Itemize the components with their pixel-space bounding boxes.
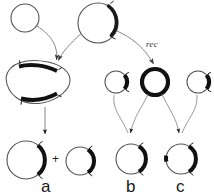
edge-topleft-to-lens: [37, 26, 57, 61]
node-a-large-circle: [7, 141, 45, 179]
node-top-center-circle: [78, 1, 118, 43]
edge-midsmall-to-b: [114, 95, 128, 133]
node-left-lens: [6, 61, 70, 105]
edge-midright-to-c: [182, 95, 197, 133]
edge-topcenter-to-lens: [59, 34, 82, 61]
rec-label: rec: [146, 40, 158, 49]
panel-label-a: a: [41, 178, 50, 195]
node-mid-bold-circle: [142, 69, 168, 95]
node-c-circle: [166, 143, 196, 175]
node-a-small-circle: [66, 146, 94, 175]
edge-bold-to-c: [162, 94, 179, 133]
node-mid-small-circle: [105, 71, 129, 93]
node-b-circle: [116, 143, 146, 175]
edge-bold-to-b: [131, 94, 149, 133]
node-mid-right-circle: [187, 71, 211, 93]
node-top-left-circle: [11, 4, 39, 32]
diagram-canvas: [0, 0, 214, 196]
recombination-diagram: rec + a b c: [0, 0, 214, 196]
panel-label-b: b: [126, 178, 135, 195]
panel-label-c: c: [176, 178, 185, 195]
plus-symbol: +: [52, 153, 59, 165]
